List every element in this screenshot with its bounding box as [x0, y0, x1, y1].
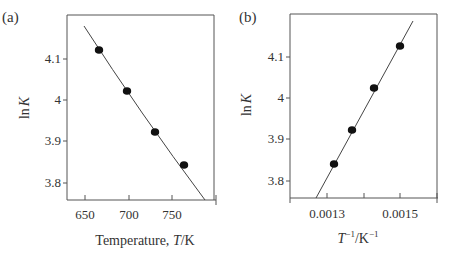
svg-text:4: 4	[55, 92, 62, 107]
svg-text:750: 750	[162, 207, 182, 222]
data-point	[348, 126, 356, 134]
svg-text:3.9: 3.9	[268, 131, 284, 146]
svg-text:3.8: 3.8	[268, 173, 284, 188]
svg-text:4.1: 4.1	[45, 51, 61, 66]
svg-text:3.8: 3.8	[45, 175, 61, 190]
svg-text:0.0015: 0.0015	[382, 206, 418, 221]
data-point	[151, 128, 159, 136]
svg-text:0.0013: 0.0013	[309, 206, 345, 221]
panel-a-y-axis-label: lnK	[17, 96, 32, 119]
panel-a-y-tick-labels: 4.1 4 3.9 3.8	[45, 51, 62, 190]
svg-text:650: 650	[75, 207, 95, 222]
svg-text:3.9: 3.9	[45, 133, 61, 148]
panel-a-label: (a)	[2, 9, 19, 26]
panel-b-y-ticks	[286, 57, 290, 181]
panel-b-y-axis-label: lnK	[239, 93, 254, 116]
data-point	[370, 84, 378, 92]
data-point	[330, 160, 338, 168]
svg-text:4: 4	[278, 90, 285, 105]
panel-b-x-axis-label: T−1/K−1	[338, 229, 379, 246]
panel-b-x-tick-labels: 0.0013 0.0015	[309, 206, 418, 221]
data-point	[95, 46, 103, 54]
panel-a-y-ticks	[63, 59, 67, 183]
data-point	[180, 161, 188, 169]
svg-text:700: 700	[119, 207, 139, 222]
svg-text:4.1: 4.1	[268, 49, 284, 64]
panel-a-x-axis-label: Temperature, T/K	[95, 233, 194, 248]
panel-b-label: (b)	[239, 9, 257, 26]
data-point	[396, 42, 404, 50]
panel-b-y-tick-labels: 4.1 4 3.9 3.8	[268, 49, 285, 188]
figure: (a) 4.1 4 3.9 3.8 650 700 750	[0, 0, 454, 258]
panel-b: (b) 4.1 4 3.9 3.8 0.0013 0.0	[239, 9, 438, 246]
data-point	[123, 87, 131, 95]
panel-a: (a) 4.1 4 3.9 3.8 650 700 750	[2, 9, 216, 248]
panel-a-x-tick-labels: 650 700 750	[75, 207, 182, 222]
